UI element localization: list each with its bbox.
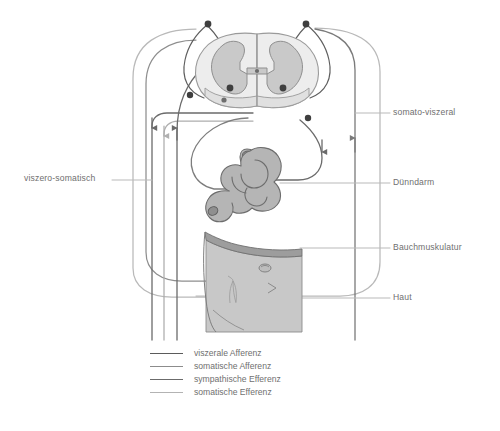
label-duenndarm: Dünndarm bbox=[393, 178, 434, 187]
diagram-canvas: viszero-somatisch somato-viszeral Dünnda… bbox=[0, 0, 500, 431]
legend-item-sympathische-efferenz: sympathische Efferenz bbox=[150, 373, 281, 386]
central-canal bbox=[255, 69, 259, 73]
label-bauchmuskulatur: Bauchmuskulatur bbox=[393, 243, 462, 252]
legend-label-sympathische-efferenz: sympathische Efferenz bbox=[194, 375, 281, 384]
abdominal-wall-skin-flap bbox=[204, 232, 302, 332]
legend: viszerale Afferenz somatische Afferenz s… bbox=[150, 347, 281, 399]
umbilicus bbox=[259, 264, 271, 272]
legend-swatch-sympathische-efferenz bbox=[150, 379, 183, 380]
synapse-cord-left bbox=[227, 85, 234, 92]
legend-label-somatische-afferenz: somatische Afferenz bbox=[194, 362, 271, 371]
gray-matter-node-left bbox=[221, 97, 226, 102]
label-viszero-somatisch: viszero-somatisch bbox=[24, 174, 95, 183]
small-intestine-loops bbox=[206, 148, 282, 222]
legend-swatch-viszerale-afferenz bbox=[150, 353, 183, 354]
legend-label-somatische-efferenz: somatische Efferenz bbox=[194, 388, 272, 397]
synapse-cord-right bbox=[280, 85, 287, 92]
legend-label-viszerale-afferenz: viszerale Afferenz bbox=[194, 349, 262, 358]
legend-swatch-somatische-efferenz bbox=[150, 392, 183, 393]
synapse-root-left bbox=[187, 92, 193, 98]
legend-item-somatische-afferenz: somatische Afferenz bbox=[150, 360, 281, 373]
intestine-distal-limb bbox=[206, 191, 233, 222]
label-haut: Haut bbox=[393, 293, 412, 302]
label-somato-viszeral: somato-viszeral bbox=[393, 108, 455, 117]
ganglion-dorsal-right bbox=[303, 21, 310, 28]
synapse-root-right bbox=[305, 115, 311, 121]
legend-item-viszerale-afferenz: viszerale Afferenz bbox=[150, 347, 281, 360]
legend-item-somatische-efferenz: somatische Efferenz bbox=[150, 386, 281, 399]
legend-swatch-somatische-afferenz bbox=[150, 366, 183, 367]
ganglion-dorsal-left bbox=[205, 21, 212, 28]
